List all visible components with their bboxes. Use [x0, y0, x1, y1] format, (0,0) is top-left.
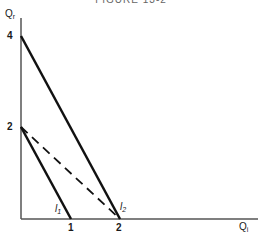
y-tick-2: 2	[7, 122, 13, 132]
line-l2	[21, 36, 120, 219]
line-l1	[21, 127, 71, 219]
dashed-line	[21, 127, 120, 219]
x-tick-1: 1	[68, 223, 74, 233]
y-axis-label: Qr	[5, 9, 15, 22]
line-l1-label: l1	[55, 204, 61, 217]
x-axis-label: Qi	[239, 222, 248, 235]
budget-line-diagram	[0, 0, 262, 240]
y-tick-4: 4	[7, 31, 13, 41]
x-tick-2: 2	[116, 223, 122, 233]
line-l2-label: l2	[120, 202, 126, 215]
